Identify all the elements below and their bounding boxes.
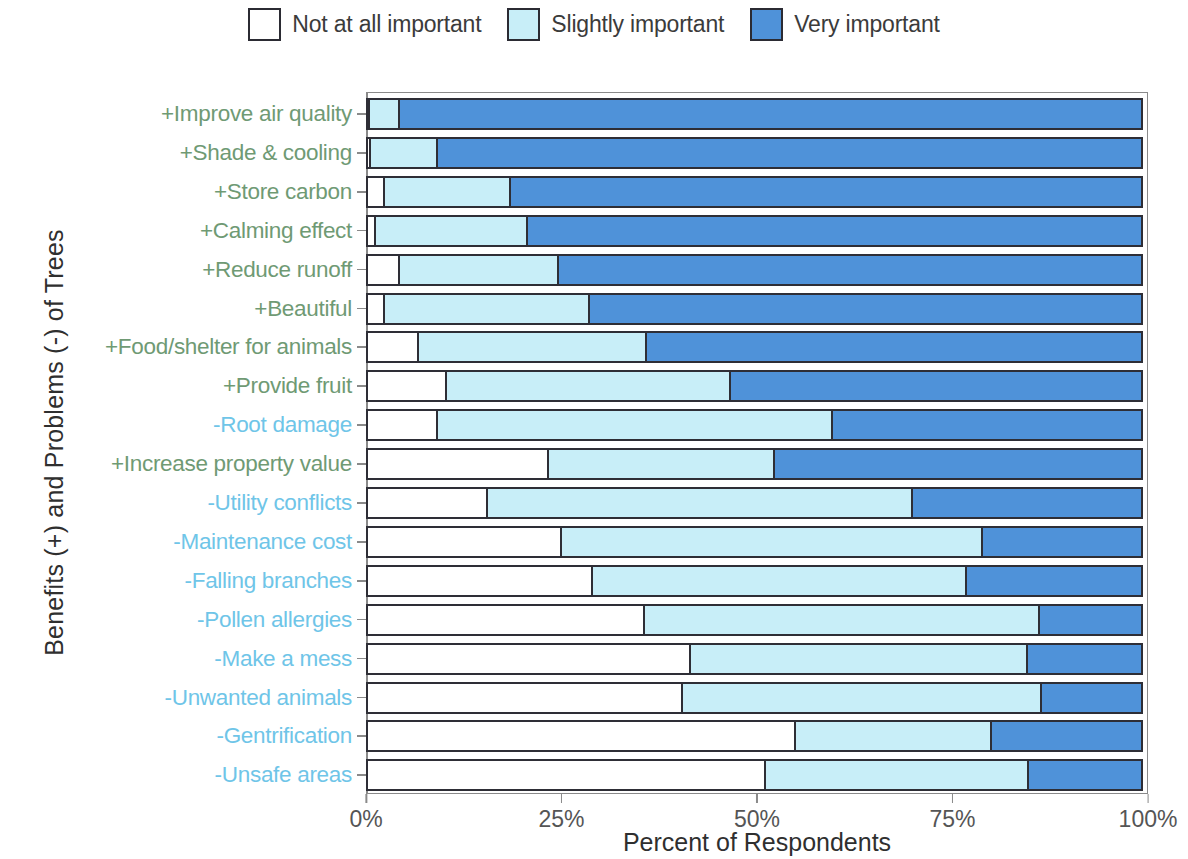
y-axis-tick-label: +Increase property value [111,448,352,480]
bar-segment-very-important [645,331,1143,363]
y-axis-tick-labels: +Improve air quality+Shade & cooling+Sto… [0,92,366,794]
bar-segment-slightly-important [417,331,648,363]
y-axis-tick-label: +Improve air quality [161,98,352,130]
bar-segment-very-important [509,176,1143,208]
bar-segment-slightly-important [382,293,589,325]
legend-swatch-very-important [750,8,783,41]
y-axis-tick-label: -Root damage [213,409,352,441]
y-axis-tick-mark [357,502,366,504]
y-axis-tick-mark [357,346,366,348]
y-axis-tick-mark [357,269,366,271]
legend-entry-very-important: Very important [750,8,940,41]
bar-segment-very-important [990,720,1143,752]
bar-segment-very-important [436,137,1144,169]
y-axis-tick-label: -Falling branches [185,565,353,597]
bar-row [366,293,1148,325]
y-axis-tick-mark [357,385,366,387]
bar-segment-slightly-important [486,487,913,519]
bar-segment-very-important [729,370,1143,402]
bar-segment-not-at-all-important [366,331,419,363]
y-axis-tick-mark [357,152,366,154]
bar-segment-very-important [525,215,1143,247]
bar-segment-slightly-important [374,215,528,247]
bar-row [366,487,1148,519]
bar-segment-not-at-all-important [366,487,488,519]
bar-row [366,370,1148,402]
y-axis-tick-label: -Unsafe areas [215,759,352,791]
bar-row [366,98,1148,130]
bar-segment-not-at-all-important [366,759,766,791]
bar-segment-not-at-all-important [366,448,549,480]
bar-segment-slightly-important [368,98,400,130]
bar-series-group [366,92,1148,794]
y-axis-tick-mark [357,619,366,621]
y-axis-tick-mark [357,697,366,699]
bar-segment-not-at-all-important [366,682,683,714]
legend-swatch-not-at-all-important [248,8,281,41]
bar-segment-very-important [1025,643,1143,675]
bar-segment-slightly-important [688,643,1027,675]
bar-row [366,137,1148,169]
bar-row [366,682,1148,714]
bar-segment-very-important [1040,682,1143,714]
y-axis-tick-label: +Food/shelter for animals [105,331,352,363]
bar-segment-not-at-all-important [366,98,370,130]
y-axis-tick-mark [357,424,366,426]
bar-row [366,565,1148,597]
bar-row [366,720,1148,752]
bar-row [366,604,1148,636]
bar-row [366,409,1148,441]
bar-segment-slightly-important [369,137,438,169]
x-axis-tick-mark [952,794,954,803]
y-axis-tick-mark [357,308,366,310]
bar-segment-not-at-all-important [366,604,645,636]
bar-segment-very-important [587,293,1143,325]
bar-row [366,215,1148,247]
y-axis-tick-label: +Shade & cooling [180,137,352,169]
bar-segment-very-important [397,98,1143,130]
bar-segment-not-at-all-important [366,293,385,325]
y-axis-tick-label: -Gentrification [216,720,352,752]
bar-segment-slightly-important [445,370,731,402]
y-axis-tick-mark [357,580,366,582]
bar-segment-very-important [981,526,1144,558]
y-axis-tick-label: -Maintenance cost [173,526,352,558]
legend: Not at all important Slightly important … [0,8,1188,41]
bar-segment-very-important [1027,759,1144,791]
bar-segment-slightly-important [436,409,833,441]
bar-row [366,448,1148,480]
y-axis-tick-label: +Reduce runoff [202,254,352,286]
y-axis-tick-label: +Provide fruit [223,370,352,402]
bar-segment-very-important [965,565,1143,597]
bar-segment-slightly-important [764,759,1029,791]
bar-segment-not-at-all-important [366,526,562,558]
bar-segment-not-at-all-important [366,643,691,675]
bar-segment-slightly-important [397,254,559,286]
bar-segment-very-important [557,254,1144,286]
x-axis-title: Percent of Respondents [366,828,1148,857]
x-axis-tick-mark [756,794,758,803]
y-axis-tick-label: -Utility conflicts [207,487,352,519]
bar-row [366,254,1148,286]
bar-segment-slightly-important [382,176,511,208]
y-axis-tick-label: -Unwanted animals [165,682,353,714]
bar-segment-very-important [773,448,1144,480]
bar-segment-very-important [910,487,1143,519]
bar-segment-not-at-all-important [366,565,593,597]
bar-segment-not-at-all-important [366,215,376,247]
x-axis-tick-mark [365,794,367,803]
y-axis-tick-label: -Pollen allergies [197,604,352,636]
y-axis-tick-mark [357,735,366,737]
y-axis-tick-mark [357,230,366,232]
y-axis-tick-label: -Make a mess [214,643,352,675]
bar-segment-not-at-all-important [366,370,447,402]
bar-row [366,331,1148,363]
bar-segment-very-important [1038,604,1144,636]
bar-segment-not-at-all-important [366,720,796,752]
legend-label-very-important: Very important [794,11,940,38]
y-axis-tick-mark [357,191,366,193]
bar-row [366,643,1148,675]
bar-segment-slightly-important [794,720,993,752]
y-axis-tick-mark [357,541,366,543]
y-axis-tick-label: +Beautiful [254,293,352,325]
